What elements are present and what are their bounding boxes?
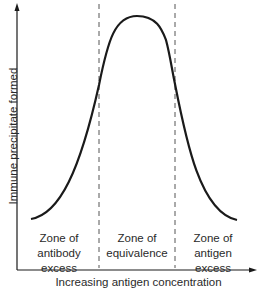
y-axis-arrow-icon bbox=[15, 3, 20, 11]
zone-equivalence: Zone of equivalence bbox=[100, 231, 174, 261]
x-axis-arrow-icon bbox=[249, 268, 257, 273]
zone-label-line: excess bbox=[24, 261, 94, 276]
x-axis-label: Increasing antigen concentration bbox=[20, 276, 257, 288]
zone-antigen-excess: Zone of antigen excess bbox=[177, 231, 249, 276]
zone-label-line: antibody bbox=[24, 246, 94, 261]
precipitin-curve bbox=[31, 16, 237, 220]
zone-label-line: equivalence bbox=[100, 246, 174, 261]
zone-label-line: excess bbox=[177, 261, 249, 276]
y-axis-label: Immune precipitate formed bbox=[7, 66, 19, 206]
zone-label-line: Zone of bbox=[100, 231, 174, 246]
zone-antibody-excess: Zone of antibody excess bbox=[24, 231, 94, 276]
zone-label-line: antigen bbox=[177, 246, 249, 261]
zone-label-line: Zone of bbox=[24, 231, 94, 246]
zone-label-line: Zone of bbox=[177, 231, 249, 246]
